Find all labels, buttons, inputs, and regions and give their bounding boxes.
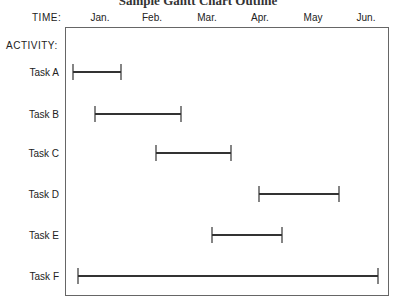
gantt-bars [0,0,396,303]
bar-task-e [212,227,282,243]
bar-task-d [259,186,339,202]
bar-task-c [156,145,231,161]
bar-task-b [95,106,181,122]
bar-task-a [73,64,121,80]
bar-task-f [78,268,378,284]
